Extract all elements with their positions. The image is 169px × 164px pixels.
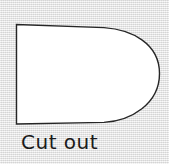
pattern-shape-svg bbox=[0, 0, 169, 164]
bullet-shape-outline bbox=[17, 25, 160, 125]
pattern-figure: Cut out bbox=[0, 0, 169, 164]
